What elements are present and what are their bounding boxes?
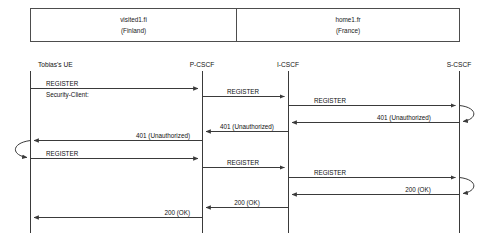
message-10-register-pcscf-icscf: REGISTER [203,159,285,168]
message-label: 401 (Unauthorized) [136,132,190,140]
self-loop-path [460,178,474,194]
self-loop-path [15,141,30,158]
message-5-401-scscf-icscf: 401 (Unauthorized) [292,114,460,123]
message-7-401-pcscf-ue: 401 (Unauthorized) [34,132,203,141]
network-domain-home: home1.fr [335,16,361,23]
message-4-self-loop-scscf [460,106,474,122]
network-country-home: (France) [336,27,360,35]
network-country-visited: (Finland) [121,27,146,35]
message-8-self-loop-ue [15,141,30,158]
self-loop-path [460,106,474,122]
message-6-401-icscf-pcscf: 401 (Unauthorized) [206,123,289,132]
network-box-visited [31,9,237,42]
message-label: 401 (Unauthorized) [377,114,431,122]
lifeline-label-ue: Tobias's UE [38,61,73,68]
network-box-home [237,9,460,42]
message-1-register-ue-pcscf: REGISTER Security-Client: [31,80,199,99]
sequence-diagram: visited1.fi (Finland) home1.fr (France) … [0,0,487,244]
message-13-200ok-scscf-icscf: 200 (OK) [292,186,460,195]
message-label: REGISTER [314,169,347,176]
message-2-register-pcscf-icscf: REGISTER [203,88,285,97]
message-15-200ok-pcscf-ue: 200 (OK) [34,209,203,218]
network-header: visited1.fi (Finland) home1.fr (France) [31,9,460,42]
message-9-register-ue-pcscf: REGISTER [31,150,199,159]
message-14-200ok-icscf-pcscf: 200 (OK) [206,199,289,208]
network-domain-visited: visited1.fi [120,16,147,23]
message-label: 200 (OK) [164,209,190,217]
message-12-self-loop-scscf [460,178,474,194]
message-label: 200 (OK) [405,186,431,194]
message-label: 401 (Unauthorized) [220,123,274,131]
message-label: REGISTER [227,88,260,95]
lifeline-label-icscf: I-CSCF [277,61,299,68]
message-sublabel: Security-Client: [46,91,89,99]
message-label: REGISTER [314,97,347,104]
lifeline-label-scscf: S-CSCF [447,61,472,68]
lifeline-label-pcscf: P-CSCF [190,61,215,68]
message-3-register-icscf-scscf: REGISTER [289,97,456,106]
message-11-register-icscf-scscf: REGISTER [289,169,456,178]
message-label: REGISTER [227,159,260,166]
message-label: REGISTER [46,150,79,157]
message-label: REGISTER [46,80,79,87]
message-label: 200 (OK) [234,199,260,207]
